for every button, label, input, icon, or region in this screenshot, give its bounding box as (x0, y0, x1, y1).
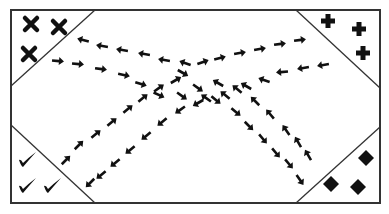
arrow-icon (89, 127, 103, 141)
check-icon (19, 178, 36, 193)
arrow-icon (196, 56, 210, 68)
arrow-icon (94, 168, 108, 182)
diamond-icon (323, 176, 339, 192)
arrow-icon (134, 78, 148, 89)
arrow-icon (296, 63, 309, 73)
diamond-icon (358, 150, 374, 166)
arrow-icon (279, 123, 292, 137)
corner-zones (11, 10, 380, 203)
arrow-icon (155, 115, 169, 129)
arrow-icon (59, 153, 73, 167)
arrow-icon (72, 138, 86, 152)
arrow-icon (213, 53, 227, 64)
arrow-icon (242, 119, 256, 133)
check-icon (44, 178, 61, 193)
arrow-icon (294, 35, 307, 45)
arrow-icon (137, 49, 150, 59)
arrow-icon (157, 55, 170, 65)
arrow-icon (229, 105, 243, 119)
corner-top-right-plus (296, 10, 380, 88)
arrow-icon (316, 60, 329, 70)
arrow-icon (239, 80, 253, 93)
arrow-icon (263, 107, 277, 121)
x-mark-icon (23, 48, 35, 60)
arrow-icon (72, 59, 85, 68)
arrow-icon (169, 74, 183, 87)
check-icon (19, 152, 36, 167)
arrow-icon (292, 135, 305, 149)
arrow-icon (117, 70, 130, 80)
diamond-icon (350, 179, 366, 195)
corner-bottom-right-diamond (296, 127, 380, 203)
arrow-path-center-to-top-left (76, 35, 192, 69)
plus-icon (356, 46, 370, 60)
arrow-icon (178, 57, 192, 69)
arrow-icon (293, 173, 306, 187)
arrow-icon (191, 81, 205, 94)
corner-bottom-left-check (11, 125, 95, 203)
game-board-diagram (0, 0, 389, 214)
arrow-icon (269, 146, 283, 160)
arrow-icon (83, 176, 97, 190)
arrow-icon (123, 143, 137, 157)
arrow-path-top-left-to-center (52, 56, 190, 102)
arrow-icon (274, 39, 287, 49)
x-mark-icon (53, 21, 65, 33)
corner-top-left-x-mark (11, 10, 95, 86)
arrow-icon (95, 64, 108, 74)
arrow-path-center-to-top-right (196, 35, 307, 68)
arrow-path-bottom-right-to-center (211, 77, 315, 163)
arrow-icon (95, 41, 108, 51)
corner-divider-line (296, 127, 380, 203)
arrow-icon (211, 77, 225, 90)
arrow-icon (115, 45, 128, 55)
corner-divider-line (296, 10, 380, 88)
arrow-path-center-to-bottom-left (83, 97, 205, 191)
arrow-icon (139, 129, 153, 143)
arrow-icon (136, 91, 150, 105)
arrow-icon (76, 35, 90, 46)
arrow-icon (173, 103, 187, 116)
arrow-icon (256, 132, 270, 146)
arrow-icon (282, 157, 296, 171)
plus-icon (321, 14, 335, 28)
arrow-icon (105, 115, 119, 129)
arrow-icon (253, 44, 266, 54)
plus-icon (352, 22, 366, 36)
board-border (11, 10, 380, 203)
arrow-paths (52, 35, 330, 190)
arrow-icon (52, 56, 65, 65)
x-mark-icon (25, 18, 37, 30)
arrow-icon (108, 156, 122, 170)
arrow-icon (175, 89, 189, 102)
arrow-icon (121, 102, 135, 116)
arrow-icon (218, 88, 232, 102)
arrow-icon (257, 74, 271, 86)
arrow-icon (302, 148, 315, 162)
arrow-icon (248, 94, 262, 108)
arrow-icon (233, 48, 246, 58)
arrow-icon (276, 67, 289, 76)
